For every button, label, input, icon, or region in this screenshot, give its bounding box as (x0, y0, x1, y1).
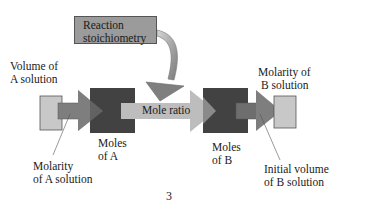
molarity-b-label-line2: B solution (261, 79, 309, 92)
moles-b-label-line1: Moles (212, 141, 241, 154)
page-number: 3 (166, 190, 172, 203)
molarity-a-label-line2: of A solution (33, 173, 92, 186)
moles-a-label-line1: Moles (98, 137, 127, 150)
moles-b-label-line2: of B (212, 154, 232, 167)
molarity-b-square (274, 96, 296, 128)
stoich-label-line2: stoichiometry (83, 32, 156, 45)
volume-a-label-line1: Volume of (10, 60, 58, 73)
initial-volume-b-label-line1: Initial volume (264, 163, 329, 176)
volume-a-label-line2: A solution (10, 73, 58, 86)
molarity-b-label-line1: Molarity of (258, 66, 311, 79)
molarity-a-label-line1: Molarity (33, 160, 73, 173)
moles-a-label-line2: of A (98, 150, 118, 163)
initial-volume-b-label-line2: of B solution (264, 176, 324, 189)
diagram-canvas (0, 0, 383, 219)
reaction-stoichiometry-box: Reaction stoichiometry (74, 16, 157, 44)
mole-ratio-label: Mole ratio (142, 104, 190, 117)
stoich-label-line1: Reaction (83, 19, 156, 32)
